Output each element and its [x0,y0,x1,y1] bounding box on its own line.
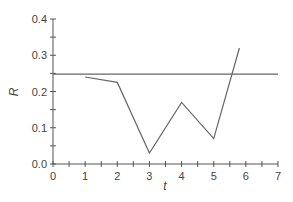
x-axis-title: t [163,179,167,193]
data-series [53,48,278,153]
y-tick-label: 0.4 [32,13,47,25]
x-tick-label: 1 [82,170,88,182]
x-tick-label: 7 [275,170,281,182]
x-tick-label: 0 [50,170,56,182]
y-tick-label: 0.2 [32,86,47,98]
x-tick-label: 6 [243,170,249,182]
y-tick-label: 0.0 [32,158,47,170]
x-tick-label: 3 [146,170,152,182]
y-axis-title: R [7,87,21,96]
x-tick-label: 2 [114,170,120,182]
y-tick-label: 0.1 [32,122,47,134]
series-line-r [85,48,239,153]
x-tick-label: 5 [211,170,217,182]
y-axis-ticks: 0.00.10.20.30.4 [32,13,56,170]
y-tick-label: 0.3 [32,49,47,61]
x-tick-label: 4 [179,170,185,182]
line-chart: 0.00.10.20.30.4 01234567 R t [0,0,293,202]
